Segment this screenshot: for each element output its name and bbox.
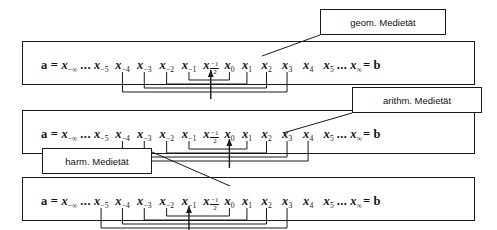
row-geometric-bracket-4 <box>122 72 287 92</box>
row-harmonic-bracket-1 <box>167 208 230 216</box>
row-harmonic-arrow-head <box>186 206 192 213</box>
row-geometric-bracket-2 <box>167 72 247 84</box>
diagram-canvas: a=x−∞...x−5x−4x−3x−2x−1x−12x0x1x2x3x4x5.… <box>0 0 497 230</box>
row-arithmetic-arrow-head <box>226 139 232 146</box>
callout-arithmetic[interactable]: arithm. Medietät <box>352 87 482 113</box>
callout-geometric-label: geom. Medietät <box>350 17 415 28</box>
callout-arithmetic-label: arithm. Medietät <box>383 95 451 106</box>
callout-arithmetic-leader <box>283 113 352 133</box>
callout-geometric[interactable]: geom. Medietät <box>320 9 446 35</box>
callout-geometric-leader <box>262 35 320 56</box>
row-arithmetic-bracket-2 <box>167 141 267 153</box>
callout-harmonic-label: harm. Medietät <box>65 156 128 167</box>
row-harmonic-bracket-2 <box>144 208 247 220</box>
callout-harmonic[interactable]: harm. Medietät <box>42 148 152 174</box>
row-geometric-arrow-head <box>208 70 214 77</box>
row-harmonic-bracket-4 <box>101 208 287 228</box>
row-arithmetic-bracket-1 <box>189 141 247 149</box>
